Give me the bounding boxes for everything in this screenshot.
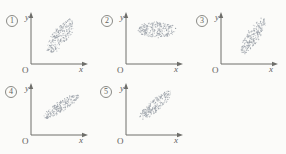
panel-3-inner: 3 y x O [190,2,285,79]
panel-2-scatter-points [95,2,190,79]
scatter-panel-2: 2 y x O [95,2,190,79]
panel-3-scatter-points [190,2,285,79]
panel-5-inner: 5 y x O [95,77,190,154]
panel-2-inner: 2 y x O [95,2,190,79]
scatter-panel-1: 1 y x O [0,2,95,79]
panel-5-scatter-points [95,77,190,154]
figure-root: 1 y x O 2 y x O [0,0,286,154]
panel-4-scatter-points [0,77,95,154]
scatter-panel-5: 5 y x O [95,77,190,154]
panel-4-inner: 4 y x O [0,77,95,154]
scatter-panel-4: 4 y x O [0,77,95,154]
scatter-panel-3: 3 y x O [190,2,285,79]
panel-1-scatter-points [0,2,95,79]
panel-1-inner: 1 y x O [0,2,95,79]
